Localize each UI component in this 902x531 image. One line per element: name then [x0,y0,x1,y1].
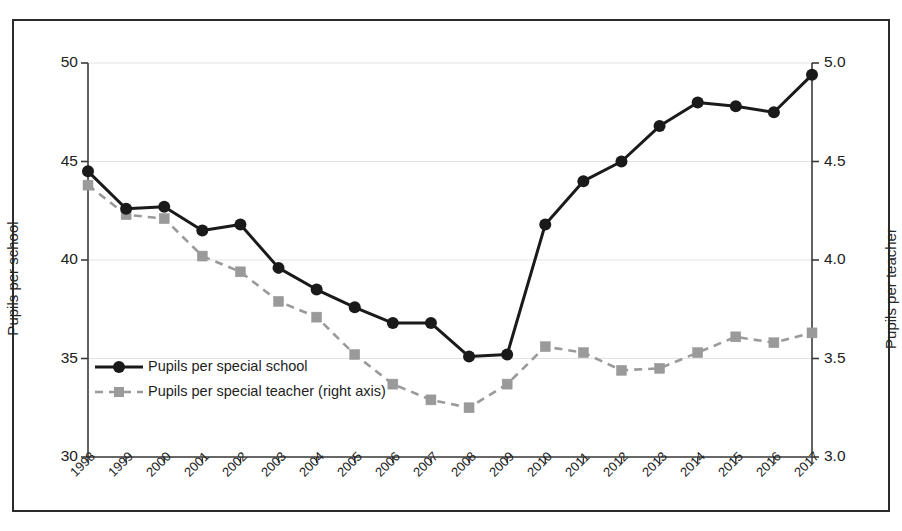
y-axis-right-tick-label: 5.0 [824,53,846,71]
legend-markers [95,361,143,397]
series-pupils-per-special-school [82,69,818,363]
tick-marks [81,63,819,463]
legend-item-label-0: Pupils per special school [148,358,308,374]
y-axis-right-tick-label: 3.0 [824,447,846,465]
chart-container: Pupils per school Pupils per teacher 303… [0,0,902,531]
y-axis-right-tick-label: 3.5 [824,349,846,367]
y-axis-left-tick-label: 35 [46,349,78,367]
y-axis-left-tick-label: 50 [46,53,78,71]
y-axis-right-tick-label: 4.5 [824,152,846,170]
legend-item-label-1: Pupils per special teacher (right axis) [148,383,386,399]
y-axis-left-tick-label: 40 [46,250,78,268]
chart-plot-area [0,0,902,531]
series-pupils-per-special-teacher [83,180,817,413]
y-axis-right-tick-label: 4.0 [824,250,846,268]
y-axis-left-tick-label: 45 [46,152,78,170]
